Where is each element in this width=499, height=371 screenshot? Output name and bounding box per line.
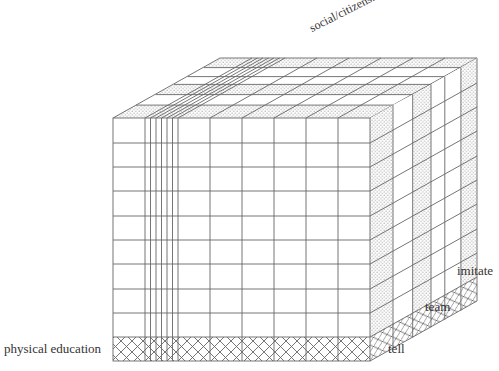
cube-diagram — [0, 0, 499, 371]
imitate-label: imitate — [457, 264, 493, 277]
tell-label: tell — [388, 342, 405, 355]
front-face — [113, 118, 370, 361]
team-label: team — [425, 300, 450, 313]
physical-education-label: physical education — [4, 342, 101, 355]
